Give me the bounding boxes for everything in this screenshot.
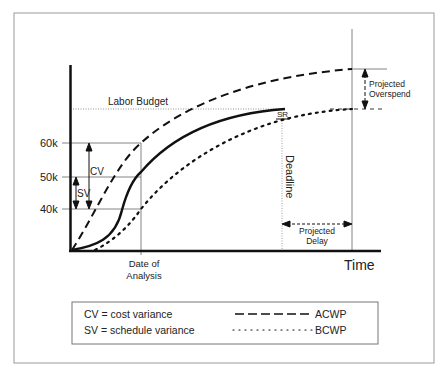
x-axis-label: Time bbox=[344, 257, 375, 273]
sv-label: SV bbox=[77, 188, 91, 199]
cv-label: CV bbox=[90, 166, 104, 177]
sr-label: SR bbox=[277, 110, 288, 119]
projected-delay-label-2: Delay bbox=[306, 236, 328, 246]
y-tick-40k: 40k bbox=[40, 203, 58, 215]
legend-sv-definition: SV = schedule variance bbox=[84, 324, 195, 336]
date-of-analysis-label-2: Analysis bbox=[126, 270, 162, 281]
earned-value-diagram: 60k 50k 40k Labor Budget CV SV SR Deadli… bbox=[0, 0, 447, 370]
legend-acwp-label: ACWP bbox=[315, 308, 347, 320]
projected-overspend-label-2: Overspend bbox=[369, 89, 411, 99]
deadline-label: Deadline bbox=[284, 155, 296, 198]
labor-budget-label: Labor Budget bbox=[108, 96, 168, 107]
y-tick-60k: 60k bbox=[40, 137, 58, 149]
y-tick-50k: 50k bbox=[40, 171, 58, 183]
legend-cv-definition: CV = cost variance bbox=[84, 308, 173, 320]
projected-delay-label-1: Projected bbox=[299, 226, 335, 236]
legend-bcwp-label: BCWP bbox=[315, 324, 347, 336]
projected-overspend-label-1: Projected bbox=[369, 79, 405, 89]
date-of-analysis-label-1: Date of bbox=[129, 258, 160, 269]
